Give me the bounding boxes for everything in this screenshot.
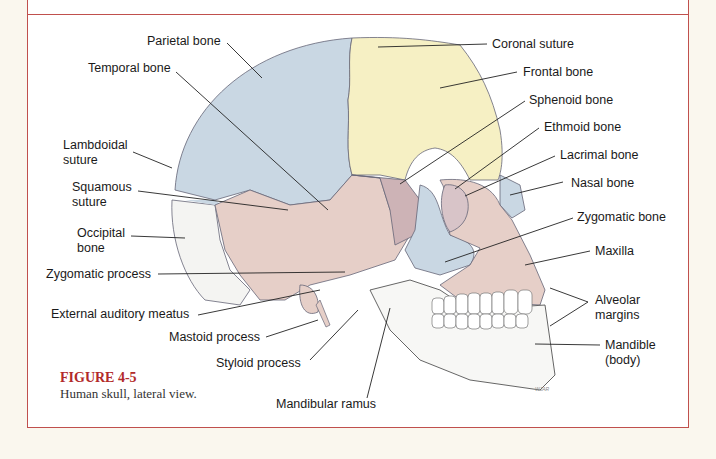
label-parietal-bone: Parietal bone (147, 34, 221, 49)
label-external-auditory-meatus: External auditory meatus (51, 307, 189, 322)
label-zygomatic-process: Zygomatic process (46, 267, 151, 282)
label-lambdoidal-suture-line1: Lambdoidal (63, 138, 128, 153)
frontal-bone-region (348, 37, 502, 180)
label-nasal-bone: Nasal bone (571, 176, 634, 191)
mastoid-region (300, 285, 319, 313)
label-maxilla: Maxilla (595, 244, 634, 259)
styloid-process-shape (316, 300, 330, 327)
label-mandible-body-line2: (body) (605, 353, 640, 368)
label-alveolar-margins-line1: Alveolar (595, 293, 640, 308)
label-alveolar-margins-line2: margins (595, 308, 639, 323)
teeth (432, 290, 532, 329)
figure-caption: Human skull, lateral view. (60, 386, 200, 401)
figure-number: FIGURE 4-5 (60, 370, 137, 386)
parietal-bone-region (175, 38, 352, 205)
label-mandibular-ramus: Mandibular ramus (276, 397, 376, 412)
label-zygomatic-bone: Zygomatic bone (577, 210, 666, 225)
label-occipital-bone-line1: Occipital (77, 226, 125, 241)
label-sphenoid-bone: Sphenoid bone (529, 93, 613, 108)
label-mandible-body-line1: Mandible (605, 338, 656, 353)
label-lacrimal-bone: Lacrimal bone (560, 148, 639, 163)
label-temporal-bone: Temporal bone (88, 61, 171, 76)
label-styloid-process: Styloid process (216, 356, 301, 371)
label-ethmoid-bone: Ethmoid bone (544, 120, 621, 135)
label-squamous-suture-line1: Squamous (72, 180, 132, 195)
label-lambdoidal-suture-line2: suture (63, 153, 98, 168)
label-squamous-suture-line2: suture (72, 195, 107, 210)
label-frontal-bone: Frontal bone (523, 65, 593, 80)
label-mastoid-process: Mastoid process (169, 330, 260, 345)
artist-signature: WJAR (535, 386, 549, 392)
label-occipital-bone-line2: bone (77, 241, 105, 256)
label-coronal-suture: Coronal suture (492, 37, 574, 52)
